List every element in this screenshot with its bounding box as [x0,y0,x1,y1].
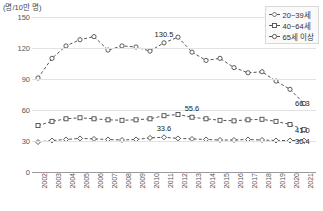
legend-item[interactable]: 65세 이상 [269,31,314,41]
data-point-marker [120,118,124,122]
data-point-marker [176,35,180,39]
chart-legend: 20~39세40~64세65세 이상 [265,6,319,44]
chart-container: (명/10만 명) 0306090120150 2002200320042005… [0,0,323,211]
x-tick-label: 2002 [41,173,48,189]
x-tick-label: 2021 [307,173,314,189]
x-tick-label: 2016 [237,173,244,189]
y-axis-tick-labels: 0306090120150 [0,17,30,172]
x-tick-label: 2003 [55,173,62,189]
data-point-marker [78,38,82,42]
series-line [38,37,304,104]
x-tick-label: 2013 [195,173,202,189]
data-point-marker [272,12,277,17]
legend-item[interactable]: 40~64세 [269,20,314,30]
x-tick-label: 2018 [265,173,272,189]
data-point-marker [288,87,292,91]
data-point-marker [92,35,96,39]
y-tick-label: 150 [2,13,30,22]
data-point-marker [246,118,250,122]
gridline [32,141,316,142]
diamond-marker-icon [269,10,280,19]
data-point-marker [218,56,222,60]
data-point-marker [50,56,54,60]
y-tick-label: 60 [2,106,30,115]
data-point-marker [134,118,138,122]
data-point-marker [272,34,276,38]
data-label: 130.5 [155,29,174,38]
data-point-marker [274,119,278,123]
data-point-marker [190,50,194,54]
data-point-marker [176,113,180,117]
legend-item[interactable]: 20~39세 [269,9,314,19]
data-point-marker [218,118,222,122]
data-point-marker [148,135,153,140]
y-axis-title: (명/10만 명) [3,1,42,12]
gridline [32,48,316,49]
data-point-marker [190,115,194,119]
data-point-marker [106,118,110,122]
x-tick-label: 2010 [153,173,160,189]
x-tick-label: 2014 [209,173,216,189]
legend-label: 20~39세 [283,9,311,20]
data-point-marker [260,70,264,74]
x-tick-label: 2005 [83,173,90,189]
x-tick-label: 2011 [167,173,174,188]
square-marker-icon [269,21,280,30]
data-point-marker [288,122,292,126]
y-tick-label: 120 [2,44,30,53]
x-tick-label: 2007 [111,173,118,189]
data-point-marker [148,117,152,121]
data-point-marker [162,135,167,140]
data-point-marker [50,119,54,123]
data-point-marker [204,117,208,121]
data-point-marker [78,116,82,120]
y-tick-label: 0 [2,168,30,177]
gridline [32,79,316,80]
data-point-marker [204,58,208,62]
legend-label: 40~64세 [283,20,311,31]
data-label: 41.0 [295,125,310,134]
data-point-marker [92,117,96,121]
x-axis-tick-labels: 2002200320042005200620072008200920102011… [32,173,316,209]
x-tick-label: 2012 [181,173,188,189]
x-tick-label: 2019 [279,173,286,189]
data-point-marker [232,66,236,70]
x-tick-label: 2009 [139,173,146,189]
data-point-marker [36,124,40,128]
y-tick-label: 90 [2,75,30,84]
data-point-marker [148,49,152,53]
data-point-marker [272,23,276,27]
x-tick-label: 2004 [69,173,76,189]
data-label: 66.3 [295,99,310,108]
x-tick-label: 2015 [223,173,230,189]
data-point-marker [162,114,166,118]
circle-marker-icon [269,32,280,41]
x-tick-label: 2020 [293,173,300,189]
data-point-marker [260,117,264,121]
gridline [32,110,316,111]
data-label: 33.6 [157,124,172,133]
x-tick-label: 2006 [97,173,104,189]
x-tick-label: 2017 [251,173,258,189]
data-label: 30.4 [295,136,310,145]
data-point-marker [246,71,250,75]
data-point-marker [64,117,68,121]
data-label: 55.6 [185,104,200,113]
legend-label: 65세 이상 [283,31,314,42]
data-point-marker [232,119,236,123]
x-tick-label: 2008 [125,173,132,189]
data-point-marker [162,41,166,45]
y-tick-label: 30 [2,137,30,146]
